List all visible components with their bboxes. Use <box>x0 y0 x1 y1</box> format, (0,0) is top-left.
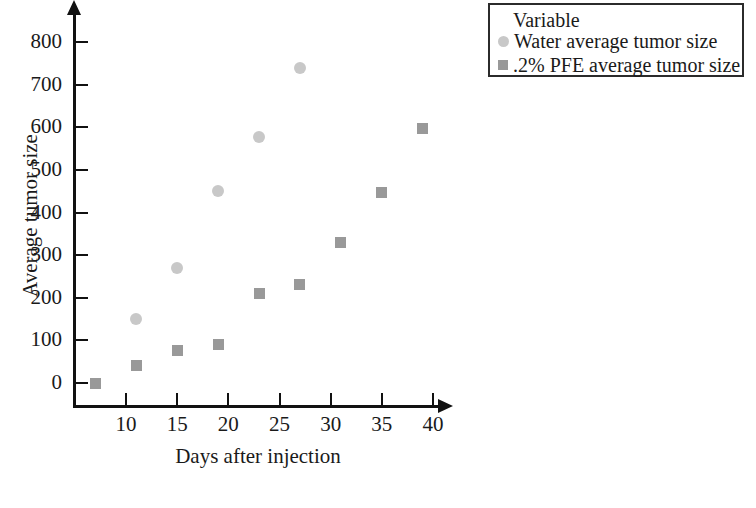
legend-entry-label: .2% PFE average tumor size <box>513 55 740 75</box>
y-axis-tick <box>76 84 88 86</box>
data-point-pfe <box>131 360 142 371</box>
x-axis-tick-label: 30 <box>306 414 356 435</box>
data-point-pfe <box>90 378 101 389</box>
legend-entry[interactable]: .2% PFE average tumor size <box>498 55 740 79</box>
data-point-pfe <box>417 123 428 134</box>
data-point-water <box>294 62 306 74</box>
x-axis-tick-label: 35 <box>357 414 407 435</box>
data-point-pfe <box>335 237 346 248</box>
data-point-pfe <box>172 345 183 356</box>
x-axis-tick <box>330 393 332 405</box>
x-axis-tick <box>279 393 281 405</box>
data-point-water <box>212 185 224 197</box>
data-point-water <box>171 262 183 274</box>
x-axis-tick <box>227 393 229 405</box>
x-axis-tick-label: 25 <box>255 414 305 435</box>
data-point-water <box>253 131 265 143</box>
legend-title: Variable <box>513 10 580 30</box>
y-axis-title: Average tumor size <box>20 91 41 341</box>
x-axis-tick-label: 15 <box>152 414 202 435</box>
y-axis-line <box>73 12 76 408</box>
legend-square-icon <box>498 60 508 70</box>
y-axis-tick <box>76 254 88 256</box>
x-axis-arrow-icon <box>438 399 453 413</box>
x-axis-tick <box>432 393 434 405</box>
y-axis-tick <box>76 297 88 299</box>
data-point-pfe <box>254 288 265 299</box>
chart-page: 0100200300400500600700800 10152025303540… <box>0 0 756 508</box>
x-axis-tick <box>381 393 383 405</box>
y-axis-tick <box>76 41 88 43</box>
legend-circle-icon <box>498 36 509 47</box>
y-axis-tick-label: 0 <box>6 372 62 393</box>
y-axis-tick <box>76 126 88 128</box>
data-point-pfe <box>376 187 387 198</box>
data-point-pfe <box>294 279 305 290</box>
legend-entry-label: Water average tumor size <box>514 31 717 51</box>
scatter-plot: 0100200300400500600700800 10152025303540… <box>0 0 756 508</box>
y-axis-tick <box>76 339 88 341</box>
x-axis-title: Days after injection <box>73 446 443 467</box>
x-axis-tick-label: 20 <box>203 414 253 435</box>
y-axis-tick <box>76 382 88 384</box>
x-axis-tick <box>176 393 178 405</box>
x-axis-tick-label: 40 <box>408 414 458 435</box>
x-axis-tick <box>125 393 127 405</box>
data-point-water <box>130 313 142 325</box>
y-axis-tick <box>76 169 88 171</box>
page-footer-fragment <box>0 500 756 508</box>
x-axis-line <box>73 405 441 408</box>
legend-entry[interactable]: Water average tumor size <box>498 31 717 55</box>
y-axis-tick-label: 800 <box>6 31 62 52</box>
data-point-pfe <box>213 339 224 350</box>
x-axis-tick-label: 10 <box>101 414 151 435</box>
y-axis-tick <box>76 212 88 214</box>
legend-box: Variable Water average tumor size.2% PFE… <box>488 3 744 77</box>
